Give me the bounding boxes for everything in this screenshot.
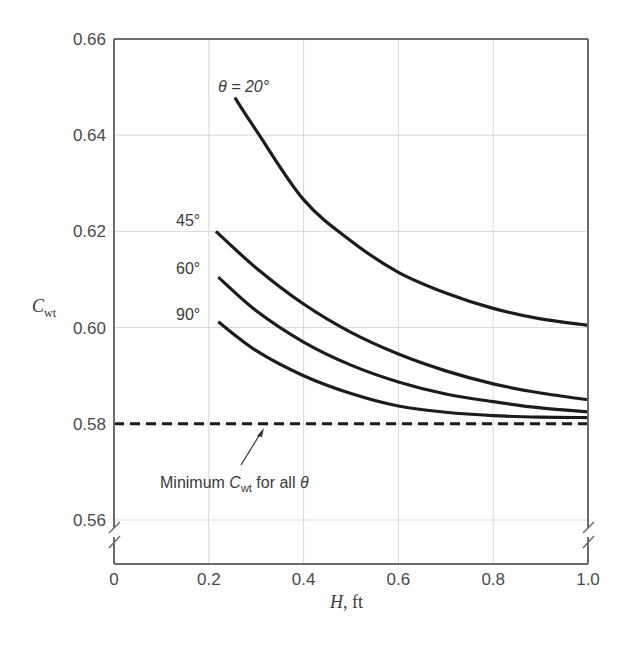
x-tick-label: 0.2 bbox=[197, 570, 221, 589]
y-tick-label: 0.58 bbox=[73, 415, 106, 434]
curve-series-3 bbox=[218, 322, 588, 418]
curve-label-20: θ = 20° bbox=[218, 78, 270, 95]
x-axis-label: H, ft bbox=[329, 592, 363, 612]
tick-labels: 0.560.580.600.620.640.6600.20.40.60.81.0 bbox=[73, 30, 600, 589]
arrow-head-icon bbox=[257, 428, 264, 437]
x-tick-label: 0 bbox=[109, 570, 118, 589]
y-tick-label: 0.62 bbox=[73, 222, 106, 241]
annotation-min-cwt: Minimum Cwt for all θ bbox=[160, 474, 309, 494]
x-tick-label: 0.6 bbox=[387, 570, 411, 589]
y-tick-label: 0.56 bbox=[73, 511, 106, 530]
y-tick-label: 0.66 bbox=[73, 30, 106, 49]
y-tick-label: 0.64 bbox=[73, 126, 106, 145]
curve-label-90: 90° bbox=[176, 306, 200, 323]
x-tick-label: 1.0 bbox=[576, 570, 600, 589]
y-axis-label: Cwt bbox=[32, 296, 57, 320]
curve-label-45: 45° bbox=[176, 212, 200, 229]
curve-label-60: 60° bbox=[176, 260, 200, 277]
x-tick-label: 0.4 bbox=[292, 570, 316, 589]
x-tick-label: 0.8 bbox=[481, 570, 505, 589]
y-tick-label: 0.60 bbox=[73, 319, 106, 338]
curve-series-1 bbox=[216, 231, 588, 399]
chart: 0.560.580.600.620.640.6600.20.40.60.81.0… bbox=[0, 0, 625, 655]
